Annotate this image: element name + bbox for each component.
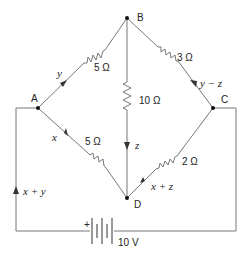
current-label-source: x + y <box>22 185 46 197</box>
node-label-C: C <box>221 94 228 105</box>
resistor-label-DC: 2 Ω <box>182 156 198 167</box>
node-label-B: B <box>137 12 144 23</box>
branch-AB <box>38 18 127 108</box>
node-label-A: A <box>31 93 38 104</box>
resistor-label-BD: 10 Ω <box>139 95 161 106</box>
resistor-label-AB: 5 Ω <box>94 62 110 73</box>
current-label-AB: y <box>56 67 62 79</box>
arrow-icon <box>124 142 130 150</box>
node-label-D: D <box>134 199 141 210</box>
source-loop <box>13 108 236 231</box>
branch-AD <box>38 108 127 198</box>
node-D <box>125 196 129 200</box>
resistor-label-AD: 5 Ω <box>85 136 101 147</box>
battery-polarity: + <box>84 219 90 230</box>
battery-icon <box>92 218 112 244</box>
arrow-icon <box>13 186 19 194</box>
current-label-DC: x + z <box>150 180 174 192</box>
battery-voltage: 10 V <box>118 237 139 248</box>
current-label-AD: x <box>51 131 57 143</box>
node-C <box>211 106 215 110</box>
branch-BD <box>123 18 131 198</box>
resistor-label-BC: 3 Ω <box>177 52 193 63</box>
node-B <box>125 16 129 20</box>
circuit-diagram: A B C D 5 Ω 3 Ω 10 Ω 5 Ω 2 Ω y y − z z x… <box>0 0 250 253</box>
current-label-BC: y − z <box>199 77 223 89</box>
arrow-icon <box>190 80 197 87</box>
node-A <box>36 106 40 110</box>
current-label-BD: z <box>134 139 140 151</box>
